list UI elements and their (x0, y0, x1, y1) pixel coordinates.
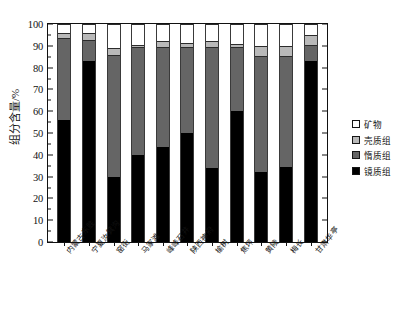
x-label-slot: 梅长 (280, 247, 294, 309)
bar-segment-vitrinite (305, 61, 317, 242)
bar-segment-inertinite (157, 47, 169, 147)
x-tick-mark (311, 242, 312, 246)
bar-segment-inertinite (108, 55, 120, 177)
bar-segment-mineral (305, 24, 317, 35)
bar-segment-mineral (58, 24, 70, 33)
x-label-slot: 焦坪 (230, 247, 244, 309)
y-tick-label: 20 (33, 193, 48, 204)
bar-segment-inertinite (181, 47, 193, 133)
legend-swatch (352, 151, 360, 159)
bar-segment-vitrinite (132, 155, 144, 242)
bar-column[interactable] (131, 24, 145, 242)
legend-swatch (352, 120, 360, 128)
bar-column[interactable] (279, 24, 293, 242)
bar-column[interactable] (57, 24, 71, 242)
bar-segment-mineral (255, 24, 267, 46)
bar-segment-inertinite (206, 47, 218, 168)
legend-label: 惰质组 (364, 149, 391, 161)
y-tick-label: 60 (33, 106, 48, 117)
chart-legend: 矿物壳质组惰质组镜质组 (352, 118, 391, 180)
y-tick-label: 100 (28, 19, 48, 30)
x-label-slot: 内蒙古东胜 (56, 247, 70, 309)
x-tick-mark (286, 242, 287, 246)
bar-column[interactable] (254, 24, 268, 242)
bar-segment-vitrinite (231, 111, 243, 242)
bar-column[interactable] (107, 24, 121, 242)
bar-segment-exinite (305, 35, 317, 45)
y-tick-label: 40 (33, 149, 48, 160)
y-tick-label: 70 (33, 84, 48, 95)
x-label-slot: 黄陵 (255, 247, 269, 309)
bar-segment-mineral (181, 24, 193, 43)
x-label-slot: 峰峰石井 (156, 247, 170, 309)
bar-segment-exinite (83, 33, 95, 41)
x-label-slot: 窑街 (106, 247, 120, 309)
legend-swatch (352, 136, 360, 144)
bar-segment-mineral (108, 24, 120, 48)
x-axis-labels: 内蒙古东胜宁夏汝箕沟窑街马家滩峰峰石井陕西神府榆树焦坪黄陵梅长甘肃华亭 (47, 247, 328, 309)
bar-series-container (48, 24, 327, 242)
bar-column[interactable] (230, 24, 244, 242)
bar-segment-mineral (206, 24, 218, 41)
chart-figure: 组分含量/% 0102030405060708090100 内蒙古东胜宁夏汝箕沟… (0, 0, 420, 309)
legend-item[interactable]: 镜质组 (352, 165, 391, 177)
y-axis-title: 组分含量/% (6, 89, 22, 145)
x-label-slot: 宁夏汝箕沟 (81, 247, 95, 309)
bar-segment-exinite (280, 46, 292, 56)
bar-segment-vitrinite (83, 61, 95, 242)
y-tick-label: 10 (33, 215, 48, 226)
bar-column[interactable] (304, 24, 318, 242)
y-tick-label: 90 (33, 40, 48, 51)
bar-segment-inertinite (255, 56, 267, 173)
bar-segment-mineral (132, 24, 144, 45)
bar-segment-exinite (255, 46, 267, 56)
x-label-slot: 陕西神府 (180, 247, 194, 309)
bar-segment-mineral (280, 24, 292, 46)
legend-item[interactable]: 惰质组 (352, 149, 391, 161)
bar-segment-mineral (157, 24, 169, 41)
bar-segment-mineral (83, 24, 95, 33)
x-tick-mark (261, 242, 262, 246)
legend-item[interactable]: 矿物 (352, 118, 391, 130)
bar-segment-vitrinite (280, 167, 292, 242)
y-tick-label: 80 (33, 62, 48, 73)
bar-segment-vitrinite (58, 120, 70, 242)
bar-column[interactable] (156, 24, 170, 242)
x-label-slot: 甘肃华亭 (305, 247, 319, 309)
bar-segment-vitrinite (157, 147, 169, 242)
y-tick-label: 0 (38, 237, 48, 248)
legend-label: 壳质组 (364, 134, 391, 146)
x-label-slot: 马家滩 (131, 247, 145, 309)
plot-area: 0102030405060708090100 (47, 23, 328, 243)
bar-segment-vitrinite (255, 172, 267, 242)
bar-segment-inertinite (83, 40, 95, 61)
bar-column[interactable] (205, 24, 219, 242)
bar-segment-inertinite (132, 47, 144, 155)
legend-label: 矿物 (364, 118, 382, 130)
legend-item[interactable]: 壳质组 (352, 134, 391, 146)
bar-segment-inertinite (280, 56, 292, 167)
bar-segment-inertinite (58, 38, 70, 120)
y-tick-label: 30 (33, 171, 48, 182)
bar-segment-inertinite (305, 45, 317, 61)
bar-segment-inertinite (231, 47, 243, 111)
y-tick-label: 50 (33, 128, 48, 139)
legend-label: 镜质组 (364, 165, 391, 177)
bar-column[interactable] (82, 24, 96, 242)
x-label-slot: 榆树 (205, 247, 219, 309)
bar-segment-mineral (231, 24, 243, 44)
legend-swatch (352, 167, 360, 175)
bar-column[interactable] (180, 24, 194, 242)
